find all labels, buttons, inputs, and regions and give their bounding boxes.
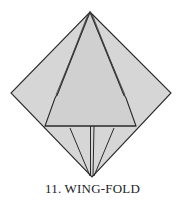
step-caption: 11. WING-FOLD: [0, 181, 185, 197]
origami-diagram: [0, 0, 185, 200]
